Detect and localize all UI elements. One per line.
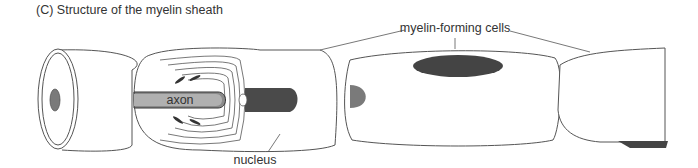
myelin-cell-middle xyxy=(345,51,575,146)
myelin-sheath-diagram: axon nucleus myelin-forming cells xyxy=(0,0,698,168)
myelin-forming-cells-label: myelin-forming cells xyxy=(400,21,510,35)
cell-nucleus xyxy=(413,55,503,77)
axon-label: axon xyxy=(166,93,193,107)
cut-cell-segment xyxy=(38,49,137,151)
myelin-cell-right xyxy=(558,48,668,148)
myelin-wrapping-cell: axon xyxy=(134,48,337,152)
axon-cross-section xyxy=(50,89,60,111)
nucleus-label: nucleus xyxy=(233,153,276,167)
node-bulge xyxy=(239,94,247,106)
nucleus xyxy=(245,88,298,112)
